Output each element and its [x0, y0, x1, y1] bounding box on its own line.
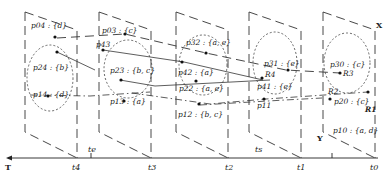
point-p30: [338, 71, 341, 74]
label-p31: p31 : {e}: [264, 59, 300, 68]
label-p12: p12 : {b, c}: [178, 110, 223, 119]
label-p30: p30 : {c}: [330, 60, 365, 69]
tick-t0: t0: [370, 163, 378, 172]
label-p24: p24 : {b}: [33, 63, 69, 72]
point-p42: [180, 60, 183, 63]
trajectory-diagram: T t4 t3 t2 t1 t0 te ts X Y: [0, 0, 391, 177]
plane-t0: [323, 12, 375, 158]
axis-arrow-icon: [6, 156, 12, 161]
label-p23: p23 : {b, c}: [110, 66, 155, 75]
label-p42: p42 : {a}: [178, 68, 214, 77]
tick-t1: t1: [297, 163, 305, 172]
label-p14: p14 : {d}: [33, 90, 69, 99]
label-p41: p41 : {e}: [257, 82, 293, 91]
point-p22: [194, 79, 197, 82]
plane-t4: [25, 12, 77, 158]
label-p13: p13 : {a}: [110, 97, 146, 106]
point-p41: [260, 76, 263, 79]
region-label-R2: R2: [327, 87, 339, 96]
time-axis: T t4 t3 t2 t1 t0 te ts: [5, 145, 378, 172]
label-p03: p03 : {c}: [102, 26, 137, 35]
label-p04: p04 : {d}: [31, 21, 67, 30]
point-p10-region: [366, 90, 369, 93]
point-p24: [55, 50, 58, 53]
axis-label-Y: Y: [316, 133, 323, 143]
cluster-ellipse-t4: [27, 45, 73, 111]
point-p32: [204, 51, 207, 54]
label-p32: p32 : {a, e}: [186, 38, 231, 47]
region-label-R4: R4: [264, 70, 276, 79]
point-p12: [197, 102, 200, 105]
tick-t2: t2: [225, 163, 233, 172]
label-p10: p10 : {a, d}: [333, 126, 378, 135]
point-p23: [119, 78, 122, 81]
point-p04: [53, 35, 56, 38]
tick-t4: t4: [72, 163, 80, 172]
region-label-R3: R3: [342, 69, 354, 78]
label-p22: p22 : {a, e}: [179, 84, 224, 93]
label-p43: p43: [96, 40, 111, 49]
tick-te: te: [88, 145, 96, 154]
tick-t3: t3: [148, 163, 156, 172]
region-label-R1: R1: [364, 105, 376, 114]
label-p11: p11: [257, 101, 271, 110]
point-p31: [286, 68, 289, 71]
axis-label-T: T: [5, 162, 11, 172]
axis-label-X: X: [376, 20, 383, 30]
point-p20: [328, 97, 331, 100]
tick-ts: ts: [255, 145, 262, 154]
